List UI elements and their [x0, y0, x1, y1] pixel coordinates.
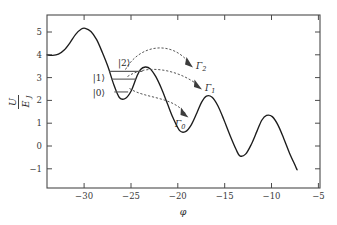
x-ticklabel-minus20: −20 — [169, 191, 187, 201]
x-ticklabel-minus30: −30 — [75, 191, 93, 201]
x-axis-title: φ — [180, 206, 187, 217]
y-ticklabel-2: 2 — [37, 95, 42, 105]
y-axis-title: U E J — [7, 95, 33, 109]
x-ticklabel-minus25: −25 — [122, 191, 140, 201]
y-ticklabel-0: 0 — [37, 141, 42, 151]
potential-energy-figure: U E J φ 5 4 3 2 1 — [0, 0, 337, 225]
x-ticklabel-minus10: −10 — [263, 191, 281, 201]
y-ticklabel-5: 5 — [37, 27, 42, 37]
y-axis-numerator: U — [7, 97, 18, 106]
y-axis-denominator: E — [20, 100, 31, 108]
figure-canvas: U E J φ 5 4 3 2 1 — [0, 0, 337, 225]
x-ticklabel-minus15: −15 — [216, 191, 234, 201]
y-ticklabel-minus1: −1 — [29, 164, 42, 174]
y-ticklabel-4: 4 — [37, 50, 42, 60]
x-axis-tick-labels: −30 −25 −20 −15 −10 −5 — [75, 191, 325, 201]
plot-background — [47, 15, 320, 188]
y-axis-denominator-subscript: J — [25, 95, 33, 100]
state-label-ket-0: |0⟩ — [93, 88, 105, 99]
state-label-ket-1: |1⟩ — [93, 73, 105, 84]
y-ticklabel-1: 1 — [37, 118, 42, 128]
state-label-ket-2: |2⟩ — [118, 58, 130, 69]
y-axis-tick-labels: 5 4 3 2 1 0 −1 — [29, 27, 42, 174]
x-ticklabel-minus5: −5 — [312, 191, 325, 201]
y-ticklabel-3: 3 — [37, 73, 42, 83]
